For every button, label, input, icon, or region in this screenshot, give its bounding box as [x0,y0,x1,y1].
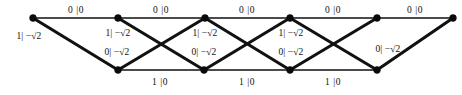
edge-label-bottom-0: 1 |0 [152,78,168,88]
edge-label-top-1: 0 |0 [153,6,169,16]
node-bottom-0 [115,67,122,74]
edge-descending-0 [33,18,118,70]
descending-diagonal-edges [33,18,377,70]
edge-label-ascending-1: 0| −√2 [192,48,217,58]
edge-label-descending-1: 1| −√2 [106,29,131,39]
edge-label-descending-3: 1| −√2 [279,29,304,39]
edge-label-ascending-3: 0| −√2 [376,45,401,55]
edge-label-bottom-1: 1 |0 [239,78,255,88]
edge-label-top-2: 0 |0 [239,6,255,16]
edge-label-ascending-0: 0| −√2 [105,48,130,58]
edge-label-ascending-2: 0| −√2 [279,48,304,58]
trellis-diagram: 0 |0 0 |0 0 |0 0 |0 0 |0 1 |0 1 |0 1 |0 … [0,0,462,95]
edge-label-descending-2: 1| −√2 [193,29,218,39]
node-bottom-1 [201,67,208,74]
node-bottom-2 [287,67,294,74]
edge-label-bottom-2: 1 |0 [325,78,341,88]
edge-label-top-0: 0 |0 [68,6,84,16]
ascending-diagonal-edges [118,18,453,70]
node-top-2 [202,15,209,22]
node-top-3 [287,15,294,22]
node-top-0 [30,15,37,22]
node-top-1 [115,15,122,22]
edge-label-top-4: 0 |0 [407,6,423,16]
node-top-5 [450,15,457,22]
edge-label-descending-0: 1| −√2 [17,32,42,42]
node-top-4 [374,15,381,22]
node-bottom-3 [374,67,381,74]
edge-label-top-3: 0 |0 [325,6,341,16]
